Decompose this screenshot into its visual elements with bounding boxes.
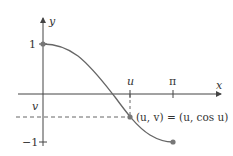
y-tick-label-neg1: −1 xyxy=(22,136,38,149)
marked-point-label: (u, v) = (u, cos u) xyxy=(136,111,228,123)
end-point xyxy=(170,139,175,144)
x-tick-label-pi: π xyxy=(169,75,176,88)
x-tick-label-u: u xyxy=(127,75,134,88)
start-point xyxy=(40,41,45,46)
cosine-graph: y x 1 −1 v u π (u, v) = (u, cos u) xyxy=(0,0,233,156)
cosine-curve xyxy=(43,44,173,142)
marked-point xyxy=(127,114,132,119)
y-tick-label-1: 1 xyxy=(29,38,36,51)
y-axis-label: y xyxy=(48,15,56,28)
x-axis-label: x xyxy=(216,79,223,92)
y-tick-label-v: v xyxy=(32,100,39,113)
